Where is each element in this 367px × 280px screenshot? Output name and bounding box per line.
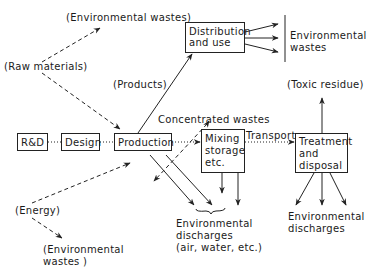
label-env-discharges-center-line1: Environmental (176, 218, 262, 230)
label-energy: (Energy) (15, 205, 60, 217)
node-mixing: Mixing storage etc. (201, 129, 245, 173)
brace (196, 208, 225, 214)
label-env-wastes-right: Environmental wastes (290, 30, 367, 53)
label-env-wastes-top: (Environmental wastes) (66, 12, 191, 24)
node-treatment-line2: and (299, 148, 344, 160)
label-env-discharges-right: Environmental discharges (288, 211, 365, 235)
label-env-wastes-bottom-line2: wastes ) (43, 256, 124, 268)
label-env-discharges-right-line1: Environmental (288, 211, 365, 223)
node-distribution-line2: and use (189, 37, 241, 48)
node-distribution: Distribution and use (185, 22, 245, 53)
label-env-wastes-right-line1: Environmental (290, 30, 367, 42)
node-design: Design (61, 133, 100, 151)
node-production: Production (114, 133, 172, 151)
label-concentrated-wastes: Concentrated wastes (158, 114, 270, 126)
node-mixing-line3: etc. (205, 157, 241, 169)
label-toxic-residue: (Toxic residue) (287, 79, 364, 91)
node-mixing-line2: storage (205, 145, 241, 157)
node-treatment: Treatment and disposal (295, 133, 348, 173)
label-env-wastes-bottom-line1: (Environmental (43, 244, 124, 256)
label-env-discharges-center-line2: discharges (176, 230, 262, 242)
label-raw-materials: (Raw materials) (4, 61, 87, 73)
node-rd: R&D (17, 133, 48, 151)
node-mixing-line1: Mixing (205, 133, 241, 145)
label-env-discharges-center: Environmental discharges (air, water, et… (176, 218, 262, 254)
node-treatment-line1: Treatment (299, 136, 344, 148)
label-env-wastes-bottom: (Environmental wastes ) (43, 244, 124, 267)
node-distribution-line1: Distribution (189, 26, 241, 37)
label-env-discharges-center-line3: (air, water, etc.) (176, 242, 262, 254)
label-products: (Products) (113, 79, 167, 91)
label-env-discharges-right-line2: discharges (288, 223, 365, 235)
node-treatment-line3: disposal (299, 160, 344, 172)
label-transport: Transport (246, 130, 296, 142)
label-env-wastes-right-line2: wastes (290, 42, 367, 54)
